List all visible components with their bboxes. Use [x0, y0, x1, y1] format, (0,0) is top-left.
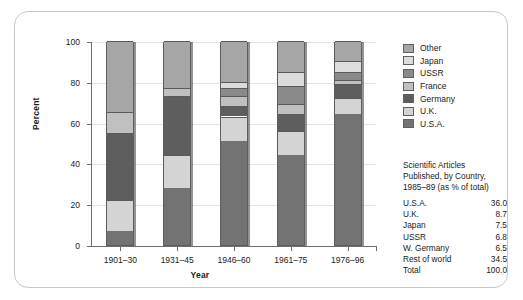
- bar-segment: [164, 41, 190, 88]
- legend-item-label: Other: [420, 43, 441, 53]
- bar-segment: [107, 41, 133, 112]
- bar-segment: [221, 41, 247, 82]
- table-row-value: 8.7: [481, 209, 507, 220]
- legend-item[interactable]: U.K.: [403, 105, 455, 118]
- x-axis-tick-label: 1901–30: [104, 255, 137, 265]
- y-axis-tick: 60: [87, 124, 92, 125]
- side-panel: OtherJapanUSSRFranceGermanyU.K.U.S.A. Sc…: [395, 12, 509, 289]
- bar-segment: [221, 117, 247, 141]
- x-axis-tick-label: 1976–96: [331, 255, 364, 265]
- stacked-bar[interactable]: [220, 42, 248, 246]
- table-row: W. Germany6.5: [403, 243, 507, 254]
- bar-segment: [164, 96, 190, 155]
- bar-segment: [278, 131, 304, 155]
- y-axis-tick: 40: [87, 164, 92, 165]
- legend-swatch-icon: [403, 107, 414, 116]
- legend-item-label: USSR: [420, 68, 444, 78]
- x-axis-tick-label: 1946–60: [217, 255, 250, 265]
- y-axis-tick: 0: [87, 246, 92, 247]
- bar-segment: [335, 61, 361, 71]
- table-row-label: USSR: [403, 232, 426, 243]
- legend-swatch-icon: [403, 69, 414, 78]
- stacked-bar[interactable]: [277, 42, 305, 246]
- data-table: U.S.A.36.0U.K.8.7Japan7.5USSR6.8W. Germa…: [403, 198, 507, 276]
- bar-segment: [221, 106, 247, 116]
- bar-segment: [164, 188, 190, 245]
- table-row-label: Rest of world: [403, 254, 451, 265]
- bar-segment: [107, 112, 133, 132]
- caption-line: 1985–89 (as % of total): [403, 182, 507, 193]
- bar-segment: [335, 114, 361, 245]
- bar-segment: [278, 155, 304, 245]
- bar-segment: [278, 86, 304, 104]
- legend-swatch-icon: [403, 94, 414, 103]
- table-row: USSR6.8: [403, 232, 507, 243]
- legend-item[interactable]: U.S.A.: [403, 118, 455, 131]
- table-row-label: W. Germany: [403, 243, 449, 254]
- caption-line: Scientific Articles: [403, 160, 507, 171]
- x-axis-tick: [177, 246, 178, 251]
- bar-segment: [335, 84, 361, 98]
- table-row-label: Total: [403, 265, 421, 276]
- y-axis-title: Percent: [31, 97, 41, 130]
- table-row-value: 6.5: [481, 243, 507, 254]
- bar-segment: [278, 114, 304, 130]
- x-axis-tick: [376, 246, 377, 251]
- x-axis-title: Year: [15, 270, 385, 280]
- table-row-label: U.S.A.: [403, 198, 427, 209]
- stacked-bar[interactable]: [163, 42, 191, 246]
- figure-frame: Percent 0204060801001901–301931–451946–6…: [14, 11, 508, 288]
- legend-item[interactable]: France: [403, 80, 455, 93]
- bar-segment: [221, 96, 247, 106]
- stacked-bar[interactable]: [334, 42, 362, 246]
- bar-segment: [278, 41, 304, 72]
- plot-area: 0204060801001901–301931–451946–601961–75…: [91, 42, 376, 247]
- table-row-value: 100.0: [481, 265, 507, 276]
- stacked-bar[interactable]: [106, 42, 134, 246]
- legend-item[interactable]: Germany: [403, 92, 455, 105]
- table-row-value: 36.0: [481, 198, 507, 209]
- y-axis-tick-label: 0: [75, 241, 80, 251]
- caption-line: Published, by Country,: [403, 171, 507, 182]
- x-axis-tick: [348, 246, 349, 251]
- bar-segment: [335, 80, 361, 84]
- legend-item[interactable]: Japan: [403, 55, 455, 68]
- caption-block: Scientific ArticlesPublished, by Country…: [403, 160, 507, 194]
- legend-swatch-icon: [403, 119, 414, 128]
- legend-item[interactable]: Other: [403, 42, 455, 55]
- y-axis-tick: 20: [87, 205, 92, 206]
- legend-swatch-icon: [403, 44, 414, 53]
- legend-swatch-icon: [403, 82, 414, 91]
- x-axis-tick: [120, 246, 121, 251]
- legend-item-label: Germany: [420, 94, 455, 104]
- x-axis-tick-label: 1931–45: [161, 255, 194, 265]
- table-row-label: Japan: [403, 220, 426, 231]
- legend-item-label: U.K.: [420, 106, 437, 116]
- legend-item-label: France: [420, 81, 446, 91]
- chart-plot-region: Percent 0204060801001901–301931–451946–6…: [15, 12, 395, 289]
- table-row: Japan7.5: [403, 220, 507, 231]
- bar-segment: [164, 88, 190, 96]
- bar-segment: [335, 98, 361, 114]
- table-row-label: U.K.: [403, 209, 419, 220]
- y-axis-tick-label: 40: [71, 159, 80, 169]
- y-axis-tick-label: 60: [71, 119, 80, 129]
- x-axis-tick: [234, 246, 235, 251]
- bar-segment: [221, 82, 247, 88]
- bar-segment: [221, 141, 247, 245]
- table-row: Rest of world34.5: [403, 254, 507, 265]
- bar-segment: [335, 72, 361, 80]
- table-row: Total100.0: [403, 265, 507, 276]
- legend-item[interactable]: USSR: [403, 67, 455, 80]
- bar-segment: [107, 133, 133, 200]
- y-axis-tick-label: 20: [71, 200, 80, 210]
- table-row-value: 6.8: [481, 232, 507, 243]
- legend-item-label: U.S.A.: [420, 119, 445, 129]
- bar-segment: [107, 200, 133, 231]
- table-row-value: 34.5: [481, 254, 507, 265]
- table-row-value: 7.5: [481, 220, 507, 231]
- x-axis-tick-label: 1961–75: [274, 255, 307, 265]
- y-axis-tick: 100: [87, 42, 92, 43]
- x-axis-tick: [291, 246, 292, 251]
- table-row: U.S.A.36.0: [403, 198, 507, 209]
